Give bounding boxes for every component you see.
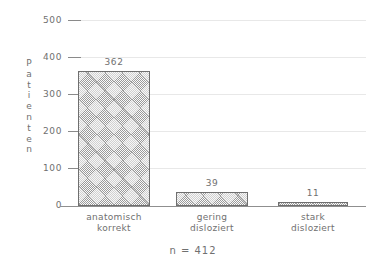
x-category-line: disloziert — [166, 223, 258, 234]
bar-value-label: 11 — [278, 188, 348, 198]
x-category-label-stark-disloziert: stark disloziert — [267, 212, 359, 234]
bar-value-label: 362 — [78, 57, 150, 67]
bar-gering-disloziert[interactable] — [176, 192, 248, 207]
x-category-line: stark — [267, 212, 359, 223]
bar-anatomisch-korrekt[interactable] — [78, 71, 150, 206]
x-category-label-gering-disloziert: gering disloziert — [166, 212, 258, 234]
x-category-line: gering — [166, 212, 258, 223]
bar-group-gering-disloziert: 39 — [176, 16, 248, 206]
bar-group-stark-disloziert: 11 — [278, 16, 348, 206]
bar-chart: 500 400 300 200 100 0 P a t i e n t e — [0, 0, 380, 272]
sample-size-annotation: n = 412 — [0, 245, 380, 256]
x-category-line: korrekt — [68, 223, 160, 234]
x-category-line: anatomisch — [68, 212, 160, 223]
x-category-label-anatomisch-korrekt: anatomisch korrekt — [68, 212, 160, 234]
bar-value-label: 39 — [176, 178, 248, 188]
bar-stark-disloziert[interactable] — [278, 202, 348, 206]
bar-group-anatomisch-korrekt: 362 — [78, 16, 150, 206]
x-category-line: disloziert — [267, 223, 359, 234]
